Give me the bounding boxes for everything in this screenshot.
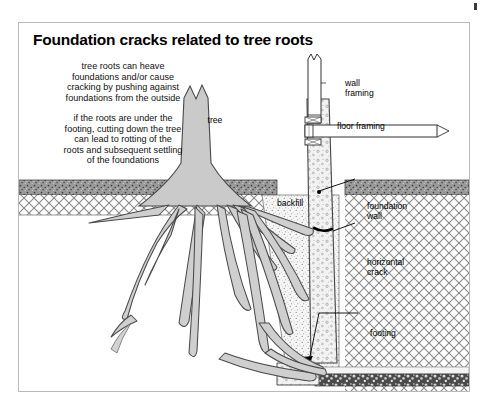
label-wall-framing: wall framing — [345, 78, 397, 98]
page-title: Foundation cracks related to tree roots — [33, 31, 313, 49]
diagram-canvas: Foundation cracks related to tree roots … — [0, 0, 485, 404]
label-backfill: backfill — [277, 198, 325, 208]
wall-framing-shape — [308, 54, 321, 123]
label-floor-framing: floor framing — [337, 121, 407, 131]
note-heave: tree roots can heave foundations and/or … — [33, 61, 213, 103]
label-tree: tree — [195, 115, 235, 125]
basement-slab — [315, 367, 469, 386]
label-foundation-wall: foundation wall — [367, 201, 429, 221]
sill-plate — [305, 117, 321, 123]
corner-artifact-mark — [474, 3, 477, 10]
diagram-frame: Foundation cracks related to tree roots … — [18, 22, 470, 392]
note-settling: if the roots are under the footing, cutt… — [25, 113, 221, 166]
label-footing: footing — [370, 328, 422, 338]
label-horizontal-crack: horizontal crack — [367, 257, 427, 277]
